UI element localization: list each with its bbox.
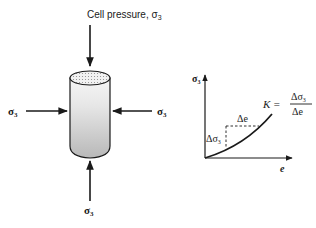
right-sigma-label: σ3 [157,105,167,119]
equation-lhs: K = [262,98,281,110]
y-axis-label: σ3 [192,73,200,85]
x-axis-label: e [280,163,285,174]
specimen-top-face [70,71,110,85]
bulk-modulus-equation: K = Δσ3 Δe [262,91,312,117]
bottom-sigma-label: σ3 [84,204,94,218]
equation-denominator: Δe [292,106,303,117]
stress-strain-graph: σ3 e Δe Δσ3 K = Δσ3 Δe [192,73,312,174]
delta-sigma-label: Δσ3 [206,133,221,145]
left-sigma-label: σ3 [8,105,18,119]
cell-pressure-label: Cell pressure, σ3 [87,9,162,21]
soil-specimen-cylinder [70,71,110,158]
triaxial-cell-diagram: Cell pressure, σ3 σ3 σ3 σ3 σ3 e [0,0,316,228]
delta-e-label: Δe [237,113,248,124]
equation-numerator: Δσ3 [291,91,306,103]
